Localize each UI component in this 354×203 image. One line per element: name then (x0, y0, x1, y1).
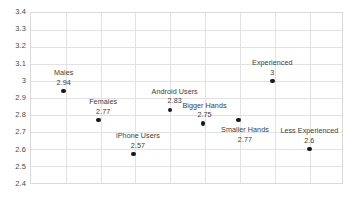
data-point[interactable] (201, 121, 206, 126)
data-point[interactable] (168, 108, 173, 113)
gridline-horizontal (31, 30, 342, 31)
y-axis-tick-label: 2.6 (15, 146, 26, 154)
y-axis-tick-label: 2.4 (15, 180, 26, 188)
y-axis-tick-label: 3.2 (15, 43, 26, 51)
data-point-label-value: 2.57 (116, 141, 160, 151)
data-point-label-name: Android Users (152, 87, 198, 96)
gridline-vertical (205, 13, 206, 183)
data-point-label-value: 2.77 (221, 135, 269, 145)
gridline-horizontal (31, 47, 342, 48)
y-axis-tick-label: 3.4 (15, 8, 26, 16)
data-point-label-name: Bigger Hands (182, 101, 226, 110)
gridline-vertical (66, 13, 67, 183)
data-point-label-value: 3 (252, 68, 293, 78)
data-point-label-value: 2.6 (280, 136, 338, 146)
data-point-label: Bigger Hands2.75 (182, 101, 226, 120)
data-point-label: Less Experienced2.6 (280, 126, 338, 145)
data-point-label-value: 2.94 (54, 78, 73, 88)
y-axis-tick-label: 3.1 (15, 60, 26, 68)
data-point-label-name: Females (89, 97, 117, 106)
data-point-label-name: Less Experienced (280, 126, 338, 135)
data-point-label: iPhone Users2.57 (116, 131, 160, 150)
data-point-label-name: Smaller Hands (221, 125, 269, 134)
y-axis-tick-label: 3 (22, 77, 26, 85)
y-axis-tick-label: 2.5 (15, 163, 26, 171)
gridline-vertical (240, 13, 241, 183)
data-point-label: Experienced3 (252, 58, 293, 77)
data-point[interactable] (307, 147, 312, 152)
gridline-vertical (275, 13, 276, 183)
data-point[interactable] (270, 79, 275, 84)
data-point-label-value: 2.75 (182, 110, 226, 120)
y-axis-tick-label: 2.7 (15, 129, 26, 137)
data-point-label-name: Males (54, 68, 73, 77)
data-point-label: Females2.77 (89, 97, 117, 116)
data-point-label-name: iPhone Users (116, 131, 160, 140)
gridline-vertical (310, 13, 311, 183)
y-axis: 2.42.52.62.72.82.933.13.23.33.4 (0, 12, 26, 184)
data-point-label: Males2.94 (54, 68, 73, 87)
data-point-label-value: 2.77 (89, 107, 117, 117)
gridline-horizontal (31, 149, 342, 150)
y-axis-tick-label: 3.3 (15, 25, 26, 33)
data-point-label-name: Experienced (252, 58, 293, 67)
scatter-chart: 2.42.52.62.72.82.933.13.23.33.4 Males2.9… (0, 0, 354, 203)
data-point-label: Smaller Hands2.77 (221, 125, 269, 144)
y-axis-tick-label: 2.9 (15, 94, 26, 102)
gridline-horizontal (31, 166, 342, 167)
y-axis-tick-label: 2.8 (15, 111, 26, 119)
gridline-horizontal (31, 64, 342, 65)
gridline-vertical (135, 13, 136, 183)
data-point[interactable] (131, 152, 136, 157)
gridline-horizontal (31, 81, 342, 82)
plot-area: Males2.94Females2.77iPhone Users2.57Andr… (30, 12, 343, 184)
